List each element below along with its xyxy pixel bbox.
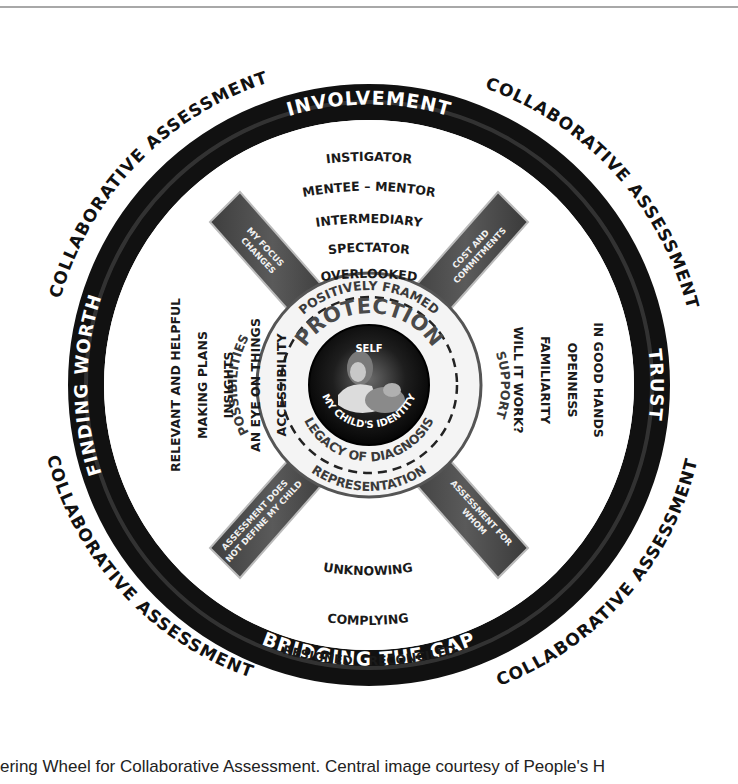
core-label-self: SELF xyxy=(355,343,382,354)
segment-left-item: INSIGHTS xyxy=(221,351,236,418)
segment-left-item: AN EYE ON THINGS xyxy=(248,318,263,452)
segment-left-item: MAKING PLANS xyxy=(195,331,210,439)
segment-right-item: IN GOOD HANDS xyxy=(591,322,606,438)
segment-right-item: FAMILIARITY xyxy=(538,336,553,425)
segment-left-item: ACCESSIBILITY xyxy=(274,333,289,437)
segment-right-item: OPENNESS xyxy=(565,342,580,417)
segment-top-item: SPECTATOR xyxy=(327,240,411,257)
segment-right-item: WILL IT WORK? xyxy=(511,326,526,433)
steering-wheel-diagram: MY FOCUS CHANGES COST AND COMMITMENTS AS… xyxy=(0,0,738,757)
segment-left-item: RELEVANT AND HELPFUL xyxy=(168,298,183,472)
figure-caption: ering Wheel for Collaborative Assessment… xyxy=(0,757,605,777)
rim-label-trust: TRUST xyxy=(645,348,668,422)
